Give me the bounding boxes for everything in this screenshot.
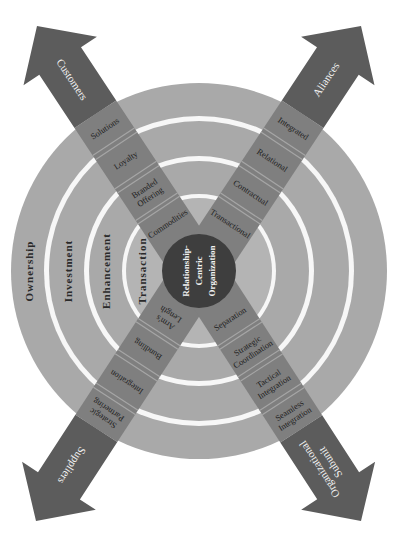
- relationship-diagram: CommoditiesBrandedOfferingLoyaltySolutio…: [0, 0, 397, 550]
- center-label-line-3: Organization: [207, 246, 217, 297]
- ring-label-group: Investment: [62, 240, 74, 303]
- diagram-canvas: CommoditiesBrandedOfferingLoyaltySolutio…: [0, 0, 397, 550]
- ring-label-investment: Investment: [62, 240, 74, 303]
- center-label-line-2: Centric: [194, 257, 204, 286]
- ring-label-enhancement: Enhancement: [100, 233, 112, 309]
- ring-label-group: Transaction: [136, 237, 148, 304]
- ring-label-group: Ownership: [23, 241, 35, 302]
- center-layer: Relationship- Centric Organization: [162, 234, 236, 308]
- ring-label-transaction: Transaction: [136, 237, 148, 304]
- center-label-line-1: Relationship-: [181, 245, 191, 297]
- ring-label-group: Enhancement: [100, 233, 112, 309]
- ring-label-ownership: Ownership: [23, 241, 35, 302]
